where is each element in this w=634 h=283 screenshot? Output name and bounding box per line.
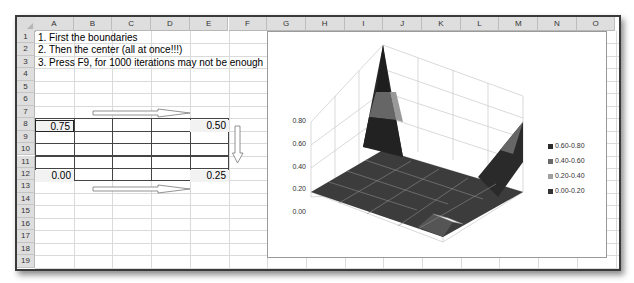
arrow-right-bottom-icon[interactable] xyxy=(92,184,192,194)
row-header-7[interactable]: 7 xyxy=(17,106,35,118)
grid-cell[interactable] xyxy=(151,168,191,181)
grid-cell[interactable] xyxy=(112,168,152,181)
column-header-b[interactable]: B xyxy=(74,17,113,31)
legend-item: 0.20-0.40 xyxy=(548,172,585,179)
row-header-1[interactable]: 1 xyxy=(17,31,35,43)
row-header-11[interactable]: 11 xyxy=(17,156,35,168)
legend-swatch-icon xyxy=(548,144,553,149)
column-header-o[interactable]: O xyxy=(577,17,616,31)
grid-cell[interactable] xyxy=(151,156,191,169)
cell-e12[interactable]: 0.25 xyxy=(190,170,229,182)
legend-item: 0.00-0.20 xyxy=(548,187,585,194)
cell-a8[interactable]: 0.75 xyxy=(35,120,74,132)
grid-cell[interactable] xyxy=(190,131,230,144)
legend-label: 0.20-0.40 xyxy=(555,172,585,179)
column-header-e[interactable]: E xyxy=(190,17,229,31)
z-tick-000: 0.00 xyxy=(282,208,306,215)
cell-a3[interactable]: 3. Press F9, for 1000 iterations may not… xyxy=(38,57,263,68)
grid-cell[interactable] xyxy=(190,156,230,169)
row-header-15[interactable]: 15 xyxy=(17,205,35,217)
grid-cell[interactable] xyxy=(74,143,114,156)
column-gridline xyxy=(616,31,617,271)
grid-cell[interactable] xyxy=(151,118,191,131)
row-header-12[interactable]: 12 xyxy=(17,168,35,180)
column-header-i[interactable]: I xyxy=(345,17,384,31)
grid-cell[interactable] xyxy=(151,143,191,156)
row-gridline xyxy=(35,268,621,269)
cell-e8[interactable]: 0.50 xyxy=(190,120,229,132)
column-header-g[interactable]: G xyxy=(267,17,306,31)
grid-cell[interactable] xyxy=(112,118,152,131)
column-header-m[interactable]: M xyxy=(499,17,538,31)
z-tick-080: 0.80 xyxy=(282,117,306,124)
grid-cell[interactable] xyxy=(35,143,75,156)
cell-a2[interactable]: 2. Then the center (all at once!!!) xyxy=(38,44,182,55)
grid-cell[interactable] xyxy=(74,156,114,169)
row-header-3[interactable]: 3 xyxy=(17,56,35,68)
grid-cell[interactable] xyxy=(74,168,114,181)
z-tick-020: 0.20 xyxy=(282,185,306,192)
column-header-l[interactable]: L xyxy=(461,17,500,31)
grid-cell[interactable] xyxy=(112,156,152,169)
grid-cell[interactable] xyxy=(74,118,114,131)
z-tick-060: 0.60 xyxy=(282,140,306,147)
column-header-d[interactable]: D xyxy=(151,17,190,31)
legend-item: 0.40-0.60 xyxy=(548,157,585,164)
column-header-n[interactable]: N xyxy=(538,17,577,31)
legend-swatch-icon xyxy=(548,159,553,164)
arrow-down-icon[interactable] xyxy=(232,125,244,165)
row-header-10[interactable]: 10 xyxy=(17,143,35,155)
row-header-9[interactable]: 9 xyxy=(17,131,35,143)
column-header-c[interactable]: C xyxy=(112,17,151,31)
row-header-18[interactable]: 18 xyxy=(17,243,35,255)
column-header-j[interactable]: J xyxy=(383,17,422,31)
column-header-h[interactable]: H xyxy=(306,17,345,31)
spreadsheet-window: ABCDEFGHIJKLMNO 123456789101112131415161… xyxy=(15,15,621,271)
column-header-f[interactable]: F xyxy=(229,17,268,31)
column-header-k[interactable]: K xyxy=(422,17,461,31)
cell-a12[interactable]: 0.00 xyxy=(35,170,74,182)
grid-cell[interactable] xyxy=(112,131,152,144)
z-tick-040: 0.40 xyxy=(282,163,306,170)
row-header-5[interactable]: 5 xyxy=(17,81,35,93)
legend-label: 0.60-0.80 xyxy=(555,142,585,149)
grid-cell[interactable] xyxy=(112,143,152,156)
grid-cell[interactable] xyxy=(190,143,230,156)
row-header-16[interactable]: 16 xyxy=(17,218,35,230)
row-header-19[interactable]: 19 xyxy=(17,255,35,267)
column-header-a[interactable]: A xyxy=(35,17,74,31)
row-header-17[interactable]: 17 xyxy=(17,230,35,242)
row-header-13[interactable]: 13 xyxy=(17,180,35,192)
surface-chart[interactable]: 0.80 0.60 0.40 0.20 0.00 0.60-0.80 0.40-… xyxy=(267,31,607,258)
legend-label: 0.40-0.60 xyxy=(555,157,585,164)
row-header-14[interactable]: 14 xyxy=(17,193,35,205)
legend-swatch-icon xyxy=(548,189,553,194)
row-header-4[interactable]: 4 xyxy=(17,68,35,80)
cell-a1[interactable]: 1. First the boundaries xyxy=(38,32,138,43)
legend-label: 0.00-0.20 xyxy=(555,187,585,194)
select-all-corner[interactable] xyxy=(17,17,36,32)
row-header-8[interactable]: 8 xyxy=(17,118,35,130)
arrow-right-top-icon[interactable] xyxy=(92,108,192,118)
grid-cell[interactable] xyxy=(35,156,75,169)
grid-cell[interactable] xyxy=(151,131,191,144)
row-header-6[interactable]: 6 xyxy=(17,93,35,105)
grid-cell[interactable] xyxy=(74,131,114,144)
legend-item: 0.60-0.80 xyxy=(548,142,585,149)
row-header-2[interactable]: 2 xyxy=(17,43,35,55)
legend-swatch-icon xyxy=(548,174,553,179)
